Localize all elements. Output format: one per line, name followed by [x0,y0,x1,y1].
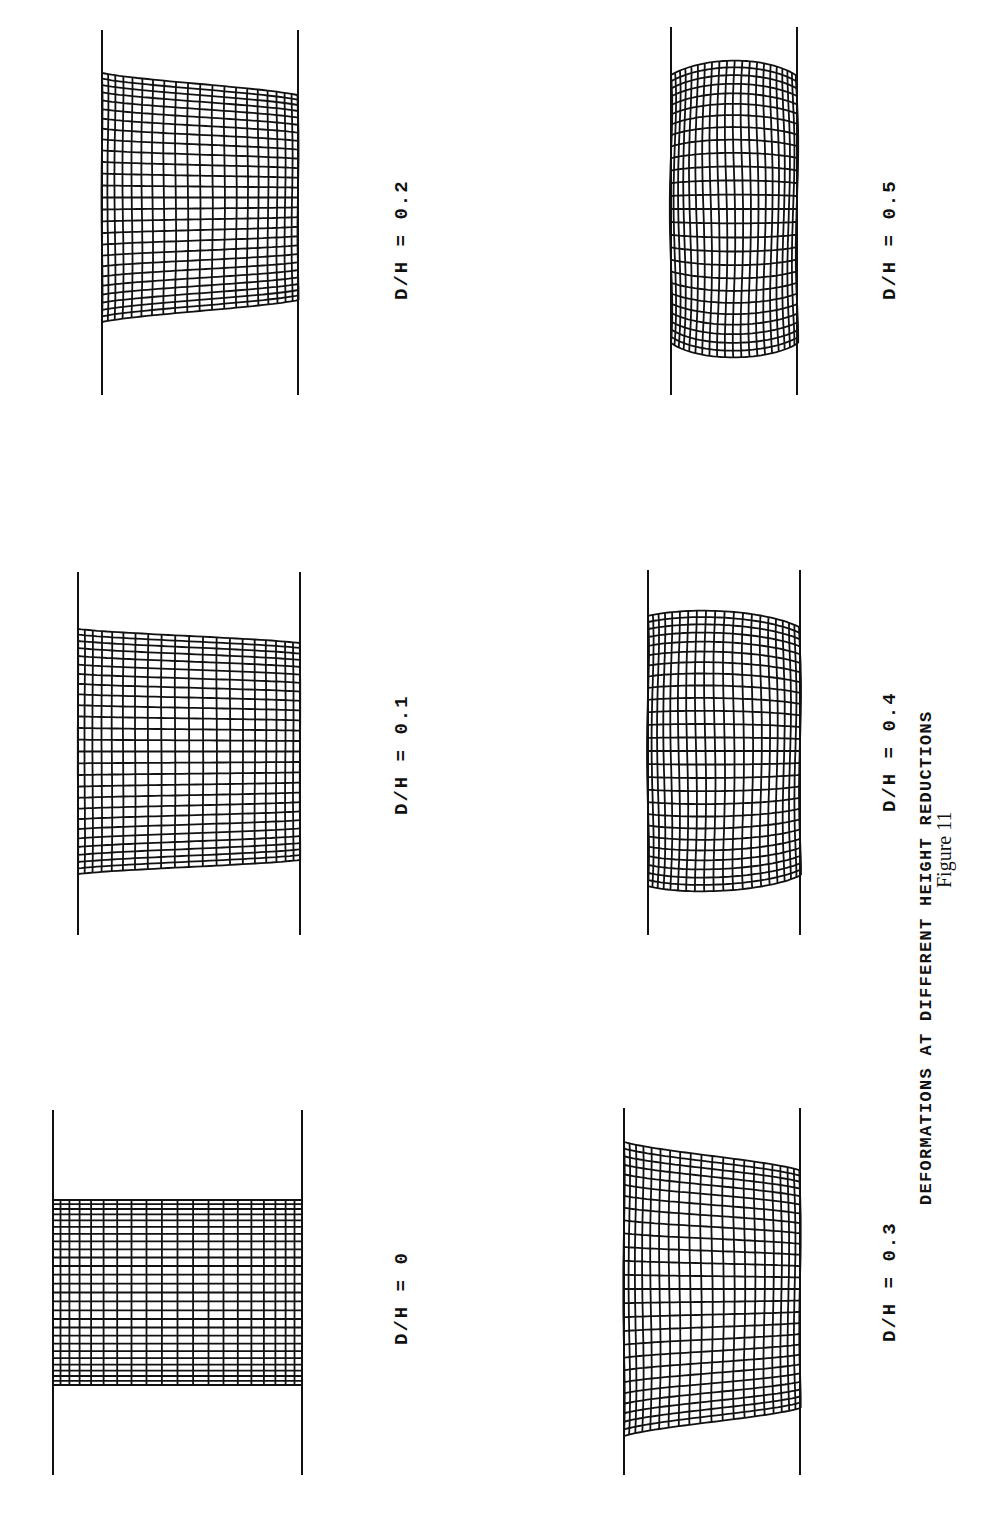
figure-number: Figure 11 [934,812,954,888]
mesh-panel-p0 [53,1110,302,1475]
panel-label-dh-0: D/H = 0 [393,1251,412,1345]
mesh-panels [53,27,801,1475]
figure-caption: DEFORMATIONS AT DIFFERENT HEIGHT REDUCTI… [918,710,935,1205]
panel-label-dh-0-1: D/H = 0.1 [393,694,412,815]
mesh-panel-p01 [78,572,300,935]
mesh-panel-p05 [670,27,798,395]
mesh-panel-p02 [102,30,299,395]
panel-label-dh-0-5: D/H = 0.5 [881,179,900,300]
panel-label-dh-0-4: D/H = 0.4 [881,691,900,812]
mesh-panel-p03 [623,1108,800,1475]
panel-label-dh-0-3: D/H = 0.3 [881,1221,900,1342]
panel-label-dh-0-2: D/H = 0.2 [393,179,412,300]
deformation-figure [0,0,999,1522]
mesh-panel-p04 [647,570,801,935]
